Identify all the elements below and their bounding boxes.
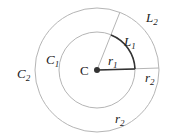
label-r2-right: r2 (145, 70, 155, 87)
concentric-circles-diagram: C r1 L1 L2 r2 r2 C1 C2 (0, 0, 175, 138)
label-r1: r1 (108, 53, 118, 70)
center-label: C (80, 63, 89, 78)
label-r2-bottom: r2 (115, 111, 125, 128)
center-point (94, 67, 100, 73)
label-c1: C1 (46, 52, 59, 69)
label-c2: C2 (17, 66, 31, 83)
label-l2: L2 (145, 10, 158, 27)
label-l1: L1 (123, 34, 136, 51)
